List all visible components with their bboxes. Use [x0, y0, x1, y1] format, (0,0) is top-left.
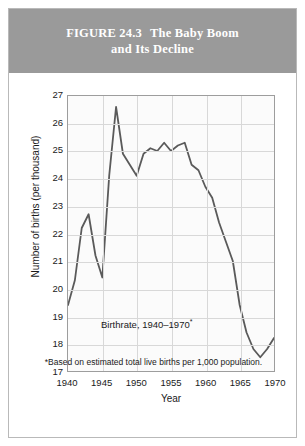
- chart-annotation: Birthrate, 1940–1970*: [101, 318, 192, 330]
- x-axis-tick-label: 1970: [255, 377, 295, 388]
- figure-title-line2: and Its Decline: [111, 42, 194, 56]
- y-axis-tick-label: 17: [35, 367, 63, 377]
- gridline-vertical: [172, 96, 173, 371]
- figure-card: FIGURE 24.3The Baby Boom and Its Decline…: [8, 8, 297, 438]
- y-axis-tick-label: 25: [35, 145, 63, 155]
- gridline-horizontal: [68, 290, 274, 291]
- y-axis-tick-label: 18: [35, 339, 63, 349]
- y-axis-tick-label: 21: [35, 256, 63, 266]
- y-axis-tick-label: 24: [35, 173, 63, 183]
- y-axis-tick-label: 19: [35, 312, 63, 322]
- figure-number: FIGURE 24.3: [66, 26, 142, 40]
- figure-title-band: FIGURE 24.3The Baby Boom and Its Decline: [9, 9, 296, 73]
- gridline-horizontal: [68, 151, 274, 152]
- y-axis-tick-label: 23: [35, 201, 63, 211]
- gridline-horizontal: [68, 262, 274, 263]
- gridline-horizontal: [68, 124, 274, 125]
- plot-frame: [67, 95, 275, 372]
- gridline-horizontal: [68, 179, 274, 180]
- y-axis-tick-label: 26: [35, 118, 63, 128]
- gridline-horizontal: [68, 207, 274, 208]
- gridline-vertical: [137, 96, 138, 371]
- gridline-vertical: [103, 96, 104, 371]
- chart-area: Number of births (per thousand) Year Bir…: [9, 73, 298, 439]
- y-axis-tick-label: 27: [35, 90, 63, 100]
- annotation-asterisk: *: [190, 318, 193, 325]
- y-axis-tick-label: 20: [35, 284, 63, 294]
- figure-title: FIGURE 24.3The Baby Boom and Its Decline: [66, 25, 239, 57]
- figure-title-line1: The Baby Boom: [150, 26, 239, 40]
- x-axis-title: Year: [67, 393, 275, 404]
- figure-footnote: *Based on estimated total live births pe…: [9, 357, 298, 367]
- series-line-birthrate: [68, 96, 274, 371]
- annotation-text: Birthrate, 1940–1970: [101, 319, 190, 330]
- y-axis-tick-label: 22: [35, 229, 63, 239]
- gridline-horizontal: [68, 345, 274, 346]
- gridline-horizontal: [68, 235, 274, 236]
- gridline-vertical: [241, 96, 242, 371]
- gridline-vertical: [207, 96, 208, 371]
